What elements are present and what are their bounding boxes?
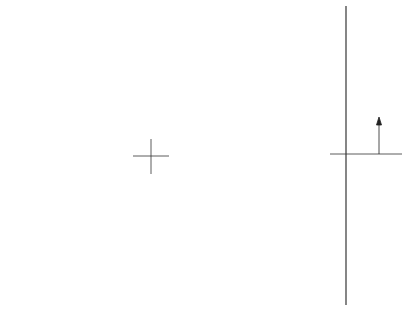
rho-arrow-icon bbox=[377, 117, 382, 154]
center-cross-icon bbox=[133, 139, 169, 174]
zone-plate-figure bbox=[0, 0, 410, 311]
